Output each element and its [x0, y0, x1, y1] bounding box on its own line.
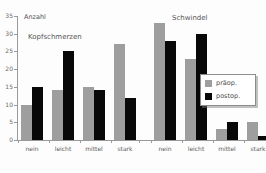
- bar-schwindel-mittel-preop: [216, 129, 227, 140]
- legend-label-preop: präop.: [216, 79, 237, 88]
- x-tick: [139, 140, 140, 143]
- bar-schwindel-leicht-preop: [185, 59, 196, 140]
- bar-kopfschmerzen-stark-preop: [114, 44, 125, 140]
- bar-kopfschmerzen-mittel-postop: [94, 90, 105, 140]
- x-tick: [182, 140, 183, 143]
- category-label-leicht: leicht: [179, 145, 213, 152]
- bar-kopfschmerzen-nein-postop: [32, 87, 43, 140]
- category-label-leicht: leicht: [46, 145, 80, 152]
- x-tick: [151, 140, 152, 143]
- category-label-mittel: mittel: [210, 145, 244, 152]
- category-label-nein: nein: [148, 145, 182, 152]
- bar-schwindel-nein-preop: [154, 23, 165, 140]
- plot-area: [0, 0, 266, 141]
- bar-kopfschmerzen-leicht-postop: [63, 51, 74, 140]
- bar-kopfschmerzen-leicht-preop: [52, 90, 63, 140]
- bar-schwindel-stark-preop: [247, 122, 258, 140]
- bar-kopfschmerzen-nein-preop: [21, 105, 32, 140]
- bar-schwindel-stark-postop: [258, 136, 266, 140]
- category-label-stark: stark: [241, 145, 266, 152]
- x-tick: [213, 140, 214, 143]
- category-label-nein: nein: [15, 145, 49, 152]
- bar-schwindel-mittel-postop: [227, 122, 238, 140]
- category-label-mittel: mittel: [77, 145, 111, 152]
- x-tick: [244, 140, 245, 143]
- bar-schwindel-nein-postop: [165, 41, 176, 140]
- legend-label-postop: postop.: [216, 92, 240, 101]
- legend: präop. postop.: [200, 74, 256, 106]
- x-tick: [18, 140, 19, 143]
- legend-swatch-postop-icon: [205, 93, 212, 100]
- legend-swatch-preop-icon: [205, 80, 212, 87]
- category-label-stark: stark: [108, 145, 142, 152]
- chart-figure: Anzahl Kopfschmerzen Schwindel 051015202…: [0, 0, 266, 173]
- x-tick: [80, 140, 81, 143]
- x-tick: [49, 140, 50, 143]
- x-tick: [111, 140, 112, 143]
- bar-kopfschmerzen-stark-postop: [125, 98, 136, 141]
- bar-kopfschmerzen-mittel-preop: [83, 87, 94, 140]
